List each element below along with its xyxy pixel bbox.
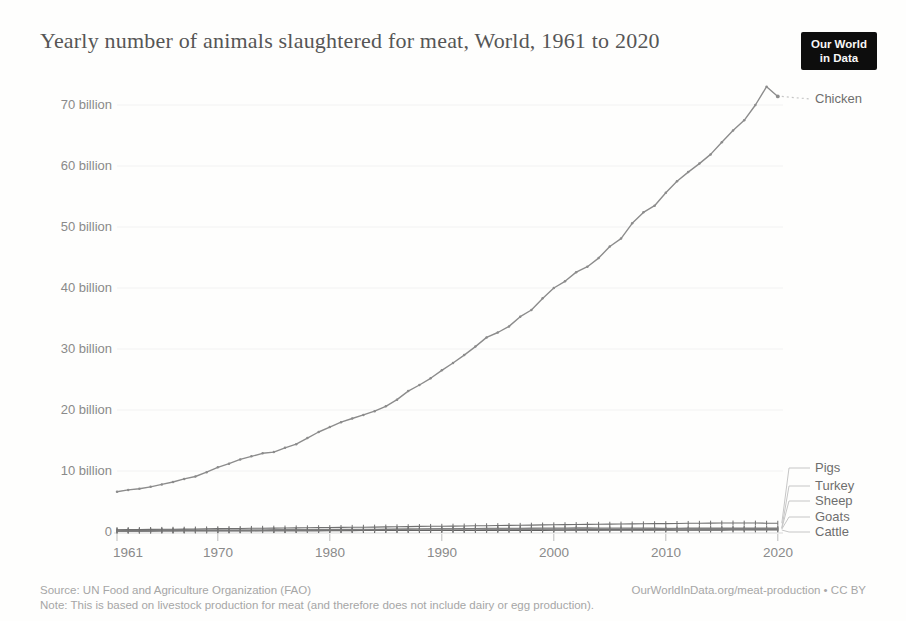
chicken-marker <box>609 245 612 248</box>
chicken-marker <box>396 398 399 401</box>
chicken-marker <box>429 377 432 380</box>
chicken-marker <box>586 265 589 268</box>
chicken-marker <box>721 141 724 144</box>
chicken-marker <box>228 462 231 465</box>
chicken-marker <box>161 483 164 486</box>
chicken-marker <box>732 129 735 132</box>
chicken-marker <box>754 104 757 107</box>
chicken-marker <box>317 431 320 434</box>
legend-label-goats[interactable]: Goats <box>815 510 850 524</box>
chicken-marker <box>519 315 522 318</box>
chicken-marker <box>665 192 668 195</box>
chicken-marker <box>194 475 197 478</box>
chicken-marker <box>250 455 253 458</box>
chicken-marker <box>485 336 488 339</box>
chicken-marker <box>205 471 208 474</box>
chicken-marker <box>385 405 388 408</box>
chicken-marker <box>620 237 623 240</box>
goats-legend-connector <box>782 517 810 529</box>
legend-label-turkey[interactable]: Turkey <box>815 479 854 493</box>
chicken-marker <box>172 481 175 484</box>
chicken-marker <box>642 211 645 214</box>
cattle-legend-connector <box>782 530 810 532</box>
chicken-marker <box>239 458 242 461</box>
chicken-marker <box>597 257 600 260</box>
chicken-marker <box>452 362 455 365</box>
legend-label-pigs[interactable]: Pigs <box>815 461 840 475</box>
legend-label-cattle[interactable]: Cattle <box>815 525 849 539</box>
chicken-marker <box>541 297 544 300</box>
plot-area[interactable] <box>0 0 906 621</box>
chicken-marker <box>295 443 298 446</box>
chicken-marker <box>776 95 780 99</box>
chicken-marker <box>284 447 287 450</box>
chicken-legend-connector <box>782 96 810 99</box>
chicken-marker <box>631 222 634 225</box>
chicken-marker <box>116 490 119 493</box>
pigs-legend-connector <box>782 468 810 523</box>
chicken-marker <box>575 271 578 274</box>
chicken-marker <box>362 414 365 417</box>
legend-label-chicken[interactable]: Chicken <box>815 92 862 106</box>
chicken-marker <box>351 417 354 420</box>
chicken-marker <box>553 287 556 290</box>
chicken-marker <box>149 486 152 489</box>
note-text: Note: This is based on livestock product… <box>40 598 594 612</box>
chicken-marker <box>273 451 276 454</box>
chicken-marker <box>138 487 141 490</box>
source-text: Source: UN Food and Agriculture Organiza… <box>40 583 311 597</box>
chicken-marker <box>474 345 477 348</box>
chicken-marker <box>441 369 444 372</box>
chicken-marker <box>418 384 421 387</box>
chicken-marker <box>698 162 701 165</box>
chicken-marker <box>407 390 410 393</box>
chicken-marker <box>306 437 309 440</box>
chicken-marker <box>261 452 264 455</box>
legend-label-sheep[interactable]: Sheep <box>815 494 853 508</box>
chicken-marker <box>765 85 768 88</box>
chicken-marker <box>676 180 679 183</box>
chicken-series-line <box>117 87 778 492</box>
chicken-marker <box>463 354 466 357</box>
chicken-marker <box>687 171 690 174</box>
chicken-marker <box>564 280 567 283</box>
chicken-marker <box>530 309 533 312</box>
chicken-marker <box>709 153 712 156</box>
license-link[interactable]: OurWorldInData.org/meat-production • CC … <box>631 583 866 597</box>
chicken-marker <box>743 119 746 122</box>
chicken-marker <box>373 410 376 413</box>
chicken-marker <box>497 331 500 334</box>
chicken-marker <box>340 421 343 424</box>
chicken-marker <box>508 325 511 328</box>
chicken-marker <box>217 466 220 469</box>
chicken-marker <box>653 204 656 207</box>
chicken-marker <box>183 478 186 481</box>
chicken-marker <box>127 489 130 492</box>
chicken-marker <box>329 426 332 429</box>
chart-container: Yearly number of animals slaughtered for… <box>0 0 906 621</box>
